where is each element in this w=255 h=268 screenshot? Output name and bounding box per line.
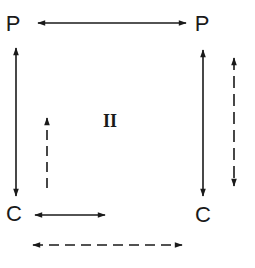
node-bottom-right-c: C: [195, 204, 211, 226]
node-bottom-left-c: C: [6, 203, 22, 225]
diagram-canvas: P P C C II: [0, 0, 255, 268]
node-top-right-p: P: [195, 13, 210, 35]
node-top-left-p: P: [6, 13, 21, 35]
edges-layer: [0, 0, 255, 268]
region-label-ii: II: [103, 112, 117, 130]
